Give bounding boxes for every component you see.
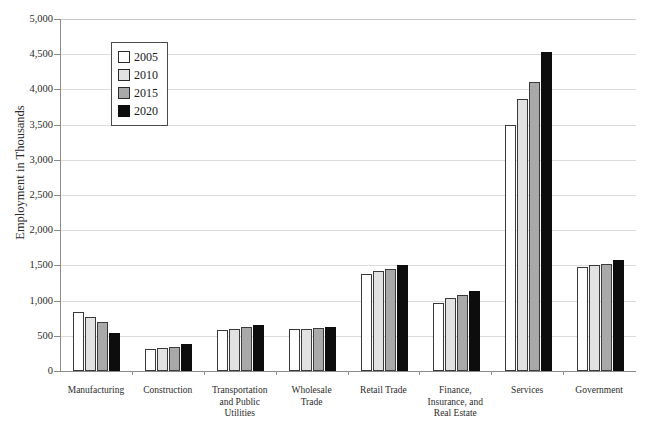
y-axis-tick-label: 3,000 [3, 155, 53, 165]
legend-item-2010: 2010 [118, 66, 158, 84]
bar [181, 344, 192, 371]
bar [385, 269, 396, 371]
legend-swatch-icon [118, 87, 130, 99]
bar [109, 333, 120, 371]
y-axis-tick-label: 2,000 [3, 225, 53, 235]
y-axis-tick [54, 19, 61, 20]
x-axis-label: Construction [132, 385, 204, 420]
bar [397, 265, 408, 371]
bar [301, 329, 312, 371]
category-separator [276, 371, 277, 375]
bar [541, 52, 552, 371]
legend-swatch-icon [118, 69, 130, 81]
y-axis-tick-label: 2,500 [3, 190, 53, 200]
y-axis-tick [54, 265, 61, 266]
y-axis-tick [54, 89, 61, 90]
y-axis-tick-label: 3,500 [3, 120, 53, 130]
bar [229, 329, 240, 371]
y-axis-tick [54, 230, 61, 231]
bar-group [205, 19, 277, 371]
legend-item-label: 2010 [134, 68, 158, 83]
bar [469, 291, 480, 371]
category-separator [491, 371, 492, 375]
y-axis-tick-label: 4,000 [3, 84, 53, 94]
bar [373, 271, 384, 371]
y-axis-tick-label: 4,500 [3, 49, 53, 59]
category-separator [563, 371, 564, 375]
bar [157, 348, 168, 371]
bar [253, 325, 264, 371]
bar-group [564, 19, 636, 371]
y-axis-tick [54, 54, 61, 55]
bar [505, 125, 516, 371]
bar [433, 303, 444, 371]
bar [85, 317, 96, 371]
x-axis-label: Retail Trade [348, 385, 420, 420]
bar [589, 265, 600, 371]
category-separator [132, 371, 133, 375]
y-axis-tick [54, 195, 61, 196]
y-axis-tick [54, 160, 61, 161]
legend-item-label: 2015 [134, 86, 158, 101]
bar [529, 82, 540, 371]
bar [361, 274, 372, 371]
x-axis-label: WholesaleTrade [276, 385, 348, 420]
bar-group [420, 19, 492, 371]
bar [313, 328, 324, 371]
bar [577, 267, 588, 371]
bar [289, 329, 300, 371]
bar-chart: Employment in Thousands 5,0004,5004,0003… [0, 0, 646, 444]
x-axis-label: Transportationand PublicUtilities [204, 385, 276, 420]
y-axis-tick-label: 500 [3, 331, 53, 341]
bar [325, 327, 336, 371]
legend-item-2015: 2015 [118, 84, 158, 102]
x-axis-label: Services [491, 385, 563, 420]
bar-group [277, 19, 349, 371]
bar [613, 260, 624, 371]
legend: 2005 2010 2015 2020 [111, 42, 168, 126]
bar [145, 349, 156, 371]
legend-swatch-icon [118, 105, 130, 117]
y-axis-tick [54, 301, 61, 302]
bar [445, 298, 456, 371]
x-axis-label: Manufacturing [60, 385, 132, 420]
bar-group [349, 19, 421, 371]
legend-item-2020: 2020 [118, 102, 158, 120]
legend-item-2005: 2005 [118, 48, 158, 66]
bar [601, 264, 612, 371]
y-axis-tick [54, 371, 61, 372]
bar [457, 295, 468, 371]
bar [241, 327, 252, 371]
x-axis-label: Government [563, 385, 635, 420]
x-axis-label: Finance,Insurance, andReal Estate [419, 385, 491, 420]
bar [217, 330, 228, 371]
legend-swatch-icon [118, 51, 130, 63]
bar [169, 347, 180, 371]
y-axis-tick-label: 1,500 [3, 260, 53, 270]
y-axis-tick-label: 0 [3, 366, 53, 376]
y-axis-tick [54, 336, 61, 337]
y-axis-tick-label: 5,000 [3, 14, 53, 24]
y-axis-tick [54, 125, 61, 126]
legend-item-label: 2020 [134, 104, 158, 119]
bar [517, 99, 528, 371]
y-axis-tick-label: 1,000 [3, 296, 53, 306]
bar [73, 312, 84, 371]
x-axis-labels: ManufacturingConstructionTransportationa… [60, 385, 635, 420]
bar [97, 322, 108, 371]
legend-item-label: 2005 [134, 50, 158, 65]
category-separator [348, 371, 349, 375]
category-separator [204, 371, 205, 375]
category-separator [419, 371, 420, 375]
bar-group [492, 19, 564, 371]
